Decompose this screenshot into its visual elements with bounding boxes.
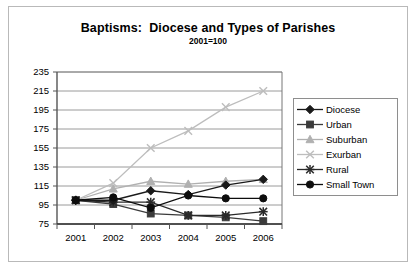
legend-label: Urban	[326, 119, 352, 130]
y-axis-tick-label: 215	[15, 85, 49, 96]
legend-item-exurban: Exurban	[296, 147, 394, 162]
legend-item-suburban: Suburban	[296, 132, 394, 147]
legend-marker-star-icon	[296, 163, 324, 176]
y-axis-tick-label: 195	[15, 104, 49, 115]
legend-label: Diocese	[326, 104, 360, 115]
legend-marker-square-icon	[296, 118, 324, 131]
y-axis-tick-label: 175	[15, 123, 49, 134]
series-rural	[71, 196, 267, 220]
legend-label: Suburban	[326, 134, 367, 145]
y-axis-tick-label: 115	[15, 180, 49, 191]
legend-item-diocese: Diocese	[296, 102, 394, 117]
legend-marker-diamond-icon	[296, 103, 324, 116]
x-axis-tick-label: 2003	[131, 232, 171, 243]
y-axis-tick-label: 155	[15, 142, 49, 153]
legend-marker-circle-icon	[296, 178, 324, 191]
x-axis-tick-label: 2004	[168, 232, 208, 243]
chart-legend: DioceseUrbanSuburbanExurbanRuralSmall To…	[293, 98, 398, 196]
series-diocese	[72, 175, 268, 204]
series-exurban	[72, 87, 267, 204]
y-axis-tick-label: 75	[15, 218, 49, 229]
y-axis-tick-label: 235	[15, 66, 49, 77]
legend-label: Rural	[326, 164, 349, 175]
legend-marker-x-icon	[296, 148, 324, 161]
y-axis-tick-label: 95	[15, 199, 49, 210]
x-axis-tick-label: 2006	[243, 232, 283, 243]
x-axis-tick-label: 2002	[93, 232, 133, 243]
legend-item-rural: Rural	[296, 162, 394, 177]
x-axis-tick-label: 2001	[56, 232, 96, 243]
legend-item-urban: Urban	[296, 117, 394, 132]
x-axis-tick-label: 2005	[206, 232, 246, 243]
legend-label: Exurban	[326, 149, 361, 160]
y-axis-tick-label: 135	[15, 161, 49, 172]
legend-marker-triangle-icon	[296, 133, 324, 146]
legend-label: Small Town	[326, 179, 374, 190]
legend-item-small-town: Small Town	[296, 177, 394, 192]
